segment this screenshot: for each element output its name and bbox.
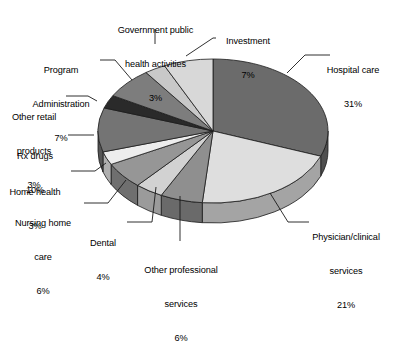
label-physician-clinical-services: Physician/clinical services 21% <box>300 210 392 333</box>
label-other-professional-services: Other professional services 6% <box>124 243 238 345</box>
label-hospital-care: Hospital care 31% <box>314 43 392 133</box>
label-program-administration: Program Administration 7% <box>23 43 99 166</box>
label-investment: Investment 7% <box>206 14 290 104</box>
label-government-public-health: Government public health activities 3% <box>88 3 223 126</box>
label-dental: Dental 4% <box>81 216 125 306</box>
